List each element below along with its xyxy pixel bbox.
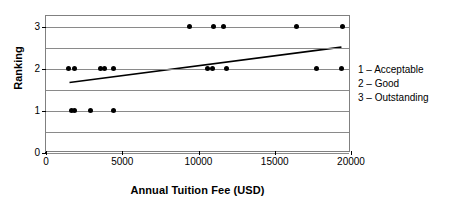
gridline-y	[46, 48, 349, 49]
x-tick-label: 10000	[185, 157, 213, 167]
scatter-chart-figure: 012305000100001500020000 Ranking Annual …	[0, 0, 452, 209]
x-tick-label: 0	[43, 157, 49, 167]
y-tick-mark	[42, 69, 46, 70]
y-tick-label: 0	[34, 148, 40, 158]
y-axis-title: Ranking	[12, 28, 24, 108]
y-tick-label: 2	[34, 64, 40, 74]
x-tick-mark	[46, 151, 47, 155]
y-tick-label: 3	[34, 22, 40, 32]
gridline-y	[46, 90, 349, 91]
x-tick-mark	[199, 151, 200, 155]
legend-entry-outstanding: 3 – Outstanding	[358, 91, 429, 105]
data-point	[66, 66, 71, 71]
legend-entry-good: 2 – Good	[358, 77, 429, 91]
plot-area: 012305000100001500020000	[45, 15, 350, 152]
x-tick-mark	[122, 151, 123, 155]
x-tick-label: 20000	[337, 157, 365, 167]
ranking-legend: 1 – Acceptable 2 – Good 3 – Outstanding	[358, 63, 429, 105]
gridline-y	[46, 132, 349, 133]
x-axis-title: Annual Tuition Fee (USD)	[45, 184, 350, 196]
trendline	[46, 16, 349, 151]
x-tick-mark	[351, 151, 352, 155]
x-tick-label: 15000	[261, 157, 289, 167]
gridline-y	[46, 69, 349, 70]
y-tick-label: 1	[34, 106, 40, 116]
x-tick-label: 5000	[111, 157, 133, 167]
y-tick-mark	[42, 27, 46, 28]
data-point	[72, 66, 77, 71]
gridline-y	[46, 153, 349, 154]
data-point	[187, 24, 192, 29]
x-tick-mark	[275, 151, 276, 155]
gridline-y	[46, 27, 349, 28]
legend-entry-acceptable: 1 – Acceptable	[358, 63, 429, 77]
y-tick-mark	[42, 111, 46, 112]
data-point	[210, 66, 215, 71]
